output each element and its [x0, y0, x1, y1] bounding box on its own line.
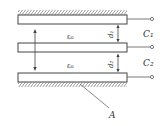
area-leader-line: [80, 84, 109, 108]
top-plate: [18, 15, 127, 24]
epsilon-bottom-label: ε₀: [67, 62, 74, 70]
bottom-plate: [18, 73, 127, 82]
d2-dimension-arrow: [116, 54, 119, 73]
epsilon-top-label: ε₀: [67, 33, 74, 41]
d2-label: d₂: [107, 61, 115, 68]
area-label: A: [108, 110, 116, 120]
terminals: [127, 17, 154, 78]
c1-label: C₁: [143, 29, 154, 39]
capacitor-diagram: ε₀ ε₀ d₁ d₂ C₁ C₂ A: [0, 0, 163, 126]
d1-label: d₁: [107, 31, 115, 38]
c2-label: C₂: [143, 58, 154, 68]
top-ground-hatching: [18, 10, 127, 15]
d1-dimension-arrow: [116, 25, 119, 43]
middle-plate: [18, 43, 127, 52]
bottom-ground-hatching: [18, 82, 127, 87]
